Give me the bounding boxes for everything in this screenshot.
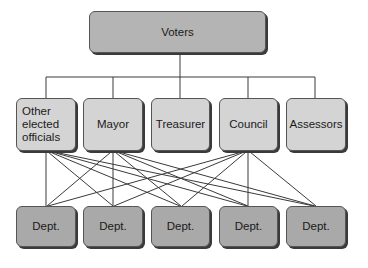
- department-label: Dept.: [32, 220, 60, 233]
- other-elected-officials-box: Other elected officials: [16, 98, 76, 151]
- department-label: Dept.: [235, 220, 263, 233]
- department-box-5: Dept.: [286, 206, 346, 247]
- mayor-label: Mayor: [97, 118, 129, 131]
- assessors-label: Assessors: [289, 118, 342, 131]
- voters-label: Voters: [161, 26, 194, 39]
- treasurer-box: Treasurer: [151, 98, 210, 151]
- mayor-box: Mayor: [83, 98, 143, 151]
- assessors-box: Assessors: [286, 98, 346, 151]
- other-elected-officials-label: Other elected officials: [22, 105, 70, 144]
- department-box-1: Dept.: [16, 206, 76, 247]
- department-label: Dept.: [99, 220, 127, 233]
- department-label: Dept.: [302, 220, 330, 233]
- department-box-4: Dept.: [219, 206, 278, 247]
- department-label: Dept.: [167, 220, 195, 233]
- council-label: Council: [229, 118, 267, 131]
- department-box-3: Dept.: [151, 206, 210, 247]
- council-box: Council: [219, 98, 278, 151]
- department-box-2: Dept.: [83, 206, 143, 247]
- voters-box: Voters: [89, 11, 266, 53]
- treasurer-label: Treasurer: [156, 118, 205, 131]
